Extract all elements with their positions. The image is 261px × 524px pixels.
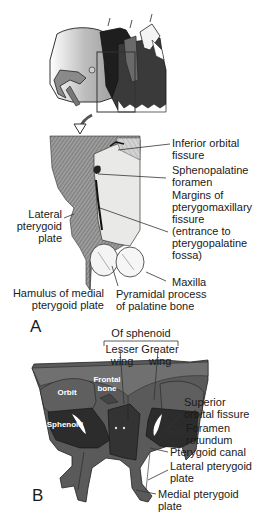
label-medial-pterygoid-plate: Medial pterygoid plate — [158, 488, 239, 512]
label-line: Maxilla — [172, 276, 206, 288]
label-lateral-pterygoid-plate: Lateral pterygoid plate — [8, 208, 62, 244]
label-hamulus-medial-pterygoid-plate: Hamulus of medial pterygoid plate — [4, 287, 104, 311]
label-line: orbital fissure — [184, 408, 249, 420]
label-line: Greater — [140, 343, 180, 355]
label-line: Frontal — [90, 375, 124, 384]
label-line: Lateral pterygoid — [170, 460, 252, 472]
label-line: Pterygoid canal — [170, 446, 246, 458]
skull-overview-illustration — [50, 14, 166, 134]
label-line: wing — [104, 355, 140, 367]
label-pyramidal-process: Pyramidal process of palatine bone — [116, 288, 206, 312]
label-line: Inferior orbital — [172, 137, 239, 149]
label-foramen-rotundum: Foramen rotundum — [186, 422, 232, 446]
label-line: pterygoid — [8, 220, 62, 232]
label-line: bone — [90, 384, 124, 393]
panel-letter-b: B — [32, 487, 43, 505]
label-pterygoid-canal: Pterygoid canal — [170, 446, 246, 458]
label-line: Lesser — [104, 343, 140, 355]
label-line: of palatine bone — [116, 300, 206, 312]
label-line: Medial pterygoid — [158, 488, 239, 500]
label-sphenopalatine-foramen: Sphenopalatine foramen — [172, 164, 248, 188]
panel-letter-a: A — [30, 318, 41, 336]
label-line: plate — [170, 472, 252, 484]
label-greater-wing: Greater wing — [140, 343, 180, 367]
label-line: pterygopalatine — [172, 237, 252, 249]
leader-lateral-pterygoid-plate-b — [148, 470, 168, 480]
label-superior-orbital-fissure: Superior orbital fissure — [184, 396, 249, 420]
pterygomaxillary-region-illustration — [50, 136, 144, 290]
label-line: fissure — [172, 149, 239, 161]
label-line: Hamulus of medial — [4, 287, 104, 299]
label-line: plate — [8, 232, 62, 244]
label-line: wing — [140, 355, 180, 367]
label-line: Pyramidal process — [116, 288, 206, 300]
label-lesser-wing: Lesser wing — [104, 343, 140, 367]
label-orbit: Orbit — [52, 388, 82, 397]
label-line: fossa) — [172, 249, 252, 261]
label-margins-pterygomaxillary-fissure: Margins of pterygomaxillary fissure (ent… — [172, 189, 252, 261]
label-inferior-orbital-fissure: Inferior orbital fissure — [172, 137, 239, 161]
label-line: rotundum — [186, 434, 232, 446]
label-line: Sphenopalatine — [172, 164, 248, 176]
label-lateral-pterygoid-plate-b: Lateral pterygoid plate — [170, 460, 252, 484]
label-line: Foramen — [186, 422, 232, 434]
label-line: Margins of — [172, 189, 252, 201]
label-frontal-bone: Frontal bone — [90, 375, 124, 393]
label-line: foramen — [172, 176, 248, 188]
leader-maxilla — [146, 272, 166, 281]
label-of-sphenoid: Of sphenoid — [104, 327, 178, 339]
label-maxilla: Maxilla — [172, 276, 206, 288]
label-line: (entrance to — [172, 225, 252, 237]
label-line: fissure — [172, 213, 252, 225]
label-line: plate — [158, 500, 239, 512]
label-sphenoid: Sphenoid — [44, 420, 86, 429]
label-line: Lateral — [8, 208, 62, 220]
label-line: pterygoid plate — [4, 299, 104, 311]
label-line: pterygomaxillary — [172, 201, 252, 213]
label-line: Superior — [184, 396, 249, 408]
